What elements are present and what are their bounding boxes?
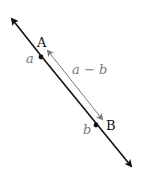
value-b-label: b bbox=[83, 122, 91, 137]
point-a-dot bbox=[39, 55, 44, 60]
point-a-label: A bbox=[36, 35, 47, 50]
main-line bbox=[12, 19, 131, 166]
value-a-label: a bbox=[26, 51, 34, 66]
number-line-diagram: A a a − b B b bbox=[0, 0, 143, 181]
point-b-dot bbox=[94, 123, 99, 128]
point-b-label: B bbox=[106, 118, 116, 133]
difference-label: a − b bbox=[72, 62, 107, 77]
